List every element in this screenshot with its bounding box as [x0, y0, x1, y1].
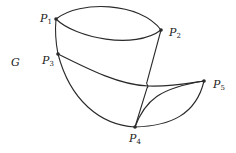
graph-label: G [11, 56, 20, 69]
graph-diagram: G P1 P2 P3 P4 P5 [0, 0, 236, 153]
vertex-label-p3: P3 [41, 54, 54, 68]
edge-p1-p2-upper [56, 7, 161, 30]
vertex-label-p2: P2 [168, 26, 181, 40]
edge-p1-p2-lower [56, 19, 161, 40]
vertex-p5 [202, 79, 206, 83]
edge-p3-p4 [58, 54, 135, 127]
vertex-p4 [133, 125, 137, 129]
vertex-label-p1: P1 [39, 12, 52, 26]
vertex-p1 [54, 17, 58, 21]
edge-p3-p5 [58, 54, 204, 86]
vertex-label-p4: P4 [128, 132, 141, 146]
edge-p4-p5-outer [135, 81, 204, 127]
vertex-p3 [56, 52, 60, 56]
vertex-label-p5: P5 [212, 78, 225, 92]
vertex-p2 [159, 28, 163, 32]
edge-p2-p4 [135, 30, 161, 127]
edge-p1-p3 [56, 19, 58, 54]
